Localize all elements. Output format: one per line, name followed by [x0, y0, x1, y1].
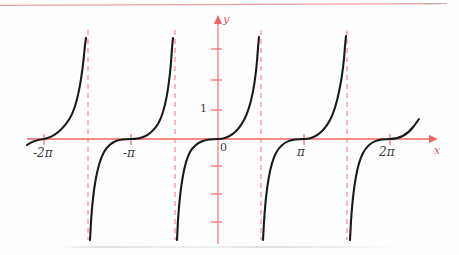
x-tick-label-pi: π	[297, 146, 305, 158]
tan-branch-clipped-left	[27, 38, 86, 145]
x-axis-arrowhead	[429, 135, 438, 143]
x-tick-label-neg-pi: -π	[123, 147, 135, 159]
origin-label: 0	[220, 142, 227, 153]
tan-branch-2pi-clipped-right	[350, 119, 419, 240]
x-tick-label-neg-2pi: -2π	[33, 147, 53, 159]
tan-branch-pi	[263, 36, 346, 240]
x-axis-label: x	[434, 145, 440, 156]
y-tick-label-one: 1	[200, 103, 207, 114]
tangent-function-plot	[0, 0, 459, 255]
x-tick-label-2pi: 2π	[379, 146, 395, 158]
axes-group	[27, 15, 438, 244]
y-axis-label: y	[223, 14, 229, 25]
curve-group	[27, 36, 419, 240]
figure-canvas: -2π -π 0 π 2π 1 x y	[0, 0, 459, 255]
page-scan-artifact	[60, 246, 400, 248]
y-tick-group	[211, 49, 222, 222]
y-axis-arrowhead	[214, 15, 222, 24]
